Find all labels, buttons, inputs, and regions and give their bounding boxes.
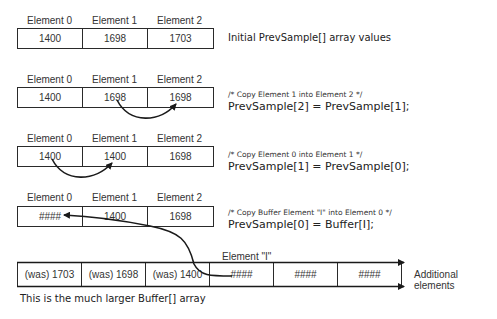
copy-arrow-1-to-2: [117, 100, 176, 118]
copy-arrow-0-to-1: [52, 159, 112, 177]
copy-arrow-buffer-to-0: [64, 215, 232, 276]
arrows-overlay: [0, 0, 497, 319]
